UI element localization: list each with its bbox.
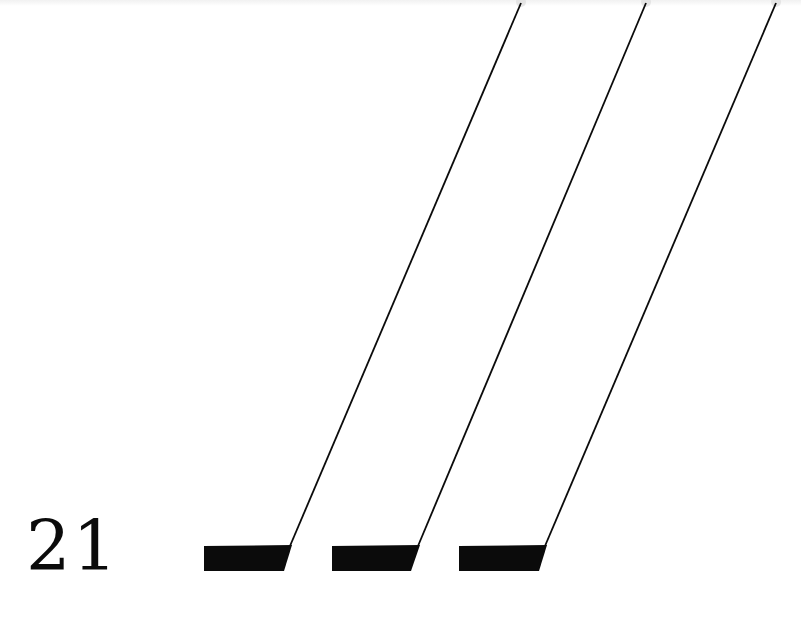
slanted-line <box>545 3 776 546</box>
mark-3 <box>459 0 781 571</box>
mark-2 <box>332 0 651 571</box>
mark-1 <box>204 0 526 571</box>
slanted-bar <box>332 545 420 571</box>
slanted-line <box>290 3 521 546</box>
slanted-line <box>418 3 646 546</box>
notation-marks <box>0 0 801 617</box>
slanted-bar <box>204 545 292 571</box>
slanted-bar <box>459 545 547 571</box>
